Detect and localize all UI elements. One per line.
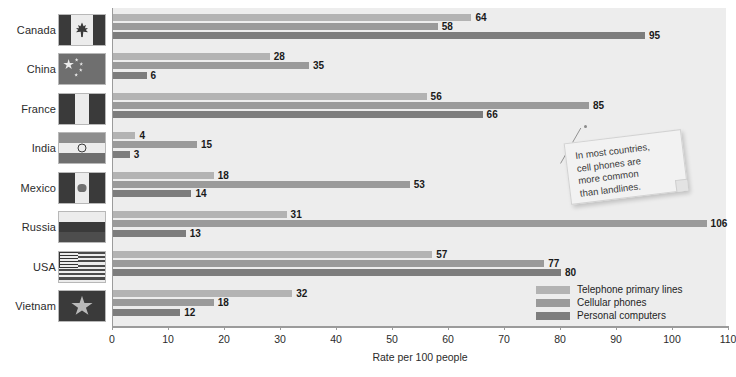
bar xyxy=(113,93,427,100)
bar-value-label: 6 xyxy=(151,72,157,79)
category-label: Mexico xyxy=(21,182,56,194)
category-label: China xyxy=(27,63,56,75)
bar-group-russia: 3110613 xyxy=(113,206,726,246)
category-row-canada: Canada xyxy=(0,10,112,50)
bar xyxy=(113,102,589,109)
x-axis-tick xyxy=(448,326,449,330)
x-axis-tick xyxy=(504,326,505,330)
bar xyxy=(113,141,197,148)
category-row-usa: USA xyxy=(0,247,112,287)
flag-usa-icon xyxy=(58,251,106,283)
bar xyxy=(113,230,186,237)
category-label: Russia xyxy=(22,221,56,233)
category-label: Vietnam xyxy=(15,300,56,312)
bar-value-label: 106 xyxy=(711,220,728,227)
x-axis-tick xyxy=(560,326,561,330)
x-axis-tick-label: 20 xyxy=(218,333,230,345)
x-axis-tick-label: 100 xyxy=(663,333,681,345)
bar xyxy=(113,62,309,69)
flag-france-icon xyxy=(58,93,106,125)
bar xyxy=(113,181,410,188)
x-axis-tick xyxy=(672,326,673,330)
bar xyxy=(113,172,214,179)
legend-label: Cellular phones xyxy=(577,297,647,308)
bar xyxy=(113,190,191,197)
bar-value-label: 32 xyxy=(296,290,307,297)
bar-group-china: 28356 xyxy=(113,48,726,88)
category-row-india: India xyxy=(0,129,112,169)
category-label: France xyxy=(21,103,56,115)
bar-value-label: 85 xyxy=(593,102,604,109)
bar xyxy=(113,111,483,118)
bar-value-label: 64 xyxy=(475,14,486,21)
bar xyxy=(113,23,438,30)
x-axis-tick-label: 10 xyxy=(162,333,174,345)
x-axis-title: Rate per 100 people xyxy=(112,351,728,363)
bar-value-label: 12 xyxy=(184,309,195,316)
bar-value-label: 95 xyxy=(649,32,660,39)
legend-label: Telephone primary lines xyxy=(577,284,683,295)
bar-value-label: 80 xyxy=(565,269,576,276)
bar xyxy=(113,53,270,60)
bar-value-label: 14 xyxy=(195,190,206,197)
flag-india-icon xyxy=(58,132,106,164)
x-axis-tick xyxy=(280,326,281,330)
bar xyxy=(113,290,292,297)
legend-swatch xyxy=(536,312,570,320)
bar xyxy=(113,260,544,267)
bar xyxy=(113,220,707,227)
category-row-russia: Russia xyxy=(0,208,112,248)
legend-item: Cellular phones xyxy=(536,297,683,309)
bar-value-label: 3 xyxy=(134,151,140,158)
x-axis-tick-label: 30 xyxy=(274,333,286,345)
x-axis-tick xyxy=(112,326,113,330)
callout-note-text: In most countries, cell phones are more … xyxy=(575,138,680,200)
bar xyxy=(113,132,135,139)
bar-value-label: 56 xyxy=(431,93,442,100)
bar-value-label: 58 xyxy=(442,23,453,30)
category-label: USA xyxy=(33,261,56,273)
bar xyxy=(113,211,287,218)
x-axis-tick xyxy=(392,326,393,330)
bar-value-label: 66 xyxy=(487,111,498,118)
bar-value-label: 18 xyxy=(218,172,229,179)
callout-anchor-dot xyxy=(584,125,587,128)
bar xyxy=(113,72,147,79)
x-axis-tick-label: 50 xyxy=(386,333,398,345)
bar xyxy=(113,151,130,158)
flag-canada-icon xyxy=(58,14,106,46)
bar-value-label: 57 xyxy=(436,251,447,258)
bar-value-label: 15 xyxy=(201,141,212,148)
bar xyxy=(113,14,471,21)
x-axis-tick-label: 70 xyxy=(498,333,510,345)
bar xyxy=(113,269,561,276)
bar-value-label: 13 xyxy=(190,230,201,237)
x-axis-tick xyxy=(168,326,169,330)
x-axis-tick xyxy=(224,326,225,330)
x-axis-tick-label: 80 xyxy=(554,333,566,345)
category-row-mexico: Mexico xyxy=(0,168,112,208)
x-axis-tick-label: 90 xyxy=(610,333,622,345)
category-axis-labels: CanadaChinaFranceIndiaMexicoRussiaUSAVie… xyxy=(0,10,112,326)
legend-swatch xyxy=(536,299,570,307)
legend-label: Personal computers xyxy=(577,310,666,321)
category-row-france: France xyxy=(0,89,112,129)
flag-china-icon xyxy=(58,53,106,85)
flag-mexico-icon xyxy=(58,172,106,204)
x-axis-tick xyxy=(336,326,337,330)
x-axis-line xyxy=(112,326,728,328)
bar-group-france: 568566 xyxy=(113,87,726,127)
bar-value-label: 18 xyxy=(218,299,229,306)
bar xyxy=(113,32,645,39)
x-axis-tick xyxy=(728,326,729,330)
legend-item: Telephone primary lines xyxy=(536,284,683,296)
x-axis-tick-label: 110 xyxy=(720,333,736,345)
category-label: India xyxy=(32,142,56,154)
bar-value-label: 4 xyxy=(139,132,145,139)
legend-swatch xyxy=(536,286,570,294)
category-label: Canada xyxy=(17,24,56,36)
bar-value-label: 77 xyxy=(548,260,559,267)
bar-group-canada: 645895 xyxy=(113,8,726,48)
x-axis-tick-label: 0 xyxy=(109,333,115,345)
callout-fold-corner xyxy=(675,179,688,192)
